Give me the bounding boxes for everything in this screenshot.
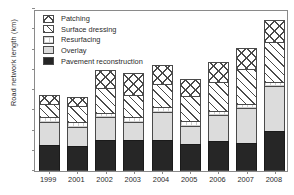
bar-segment-pavement-reconstruction[interactable] <box>123 140 144 171</box>
x-tick <box>77 171 78 174</box>
legend-item-overlay[interactable]: Overlay <box>43 46 143 55</box>
x-axis-label-2008: 2008 <box>257 175 291 184</box>
x-tick <box>218 171 219 174</box>
legend-label: Overlay <box>61 46 86 55</box>
bar-segment-patching[interactable] <box>152 65 173 84</box>
legend-label: Surface dressing <box>61 25 116 34</box>
x-tick <box>49 171 50 174</box>
bar-segment-pavement-reconstruction[interactable] <box>67 146 88 171</box>
bar-segment-overlay[interactable] <box>95 117 116 140</box>
bar-segment-patching[interactable] <box>180 79 201 96</box>
bar-segment-patching[interactable] <box>236 48 257 70</box>
x-tick <box>106 171 107 174</box>
bar-segment-resurfacing[interactable] <box>123 117 144 122</box>
y-tick <box>32 8 35 9</box>
bar-segment-patching[interactable] <box>95 70 116 88</box>
bar-1999[interactable] <box>39 95 60 171</box>
bar-segment-overlay[interactable] <box>264 86 285 131</box>
bar-segment-surface-dressing[interactable] <box>208 82 229 111</box>
bar-segment-patching[interactable] <box>123 73 144 95</box>
bar-segment-patching[interactable] <box>39 95 60 103</box>
bar-segment-overlay[interactable] <box>236 108 257 143</box>
bar-segment-surface-dressing[interactable] <box>236 69 257 103</box>
legend-label: Pavement reconstruction <box>61 57 143 66</box>
bar-segment-patching[interactable] <box>208 62 229 82</box>
legend-item-pavement-reconstruction[interactable]: Pavement reconstruction <box>43 56 143 65</box>
legend-swatch-icon <box>43 15 54 23</box>
legend-label: Resurfacing <box>61 35 100 44</box>
bar-segment-surface-dressing[interactable] <box>95 88 116 112</box>
bar-segment-resurfacing[interactable] <box>264 82 285 87</box>
bar-segment-pavement-reconstruction[interactable] <box>95 140 116 171</box>
bar-segment-overlay[interactable] <box>180 126 201 144</box>
bar-segment-surface-dressing[interactable] <box>180 96 201 120</box>
bar-segment-overlay[interactable] <box>67 127 88 146</box>
chart-legend: PatchingSurface dressingResurfacingOverl… <box>43 14 143 66</box>
bar-segment-resurfacing[interactable] <box>208 111 229 116</box>
bar-segment-pavement-reconstruction[interactable] <box>152 140 173 171</box>
legend-label: Patching <box>61 14 90 23</box>
bar-segment-resurfacing[interactable] <box>152 107 173 112</box>
bar-segment-overlay[interactable] <box>152 112 173 141</box>
legend-swatch-icon <box>43 25 54 33</box>
bar-2003[interactable] <box>123 73 144 171</box>
legend-item-surface-dressing[interactable]: Surface dressing <box>43 25 143 34</box>
stacked-bar-chart: Road network length (km) 199920012002200… <box>0 0 294 195</box>
x-tick <box>247 171 248 174</box>
legend-swatch-icon <box>43 46 54 54</box>
bar-2005[interactable] <box>180 79 201 171</box>
bar-segment-pavement-reconstruction[interactable] <box>236 143 257 171</box>
bar-2006[interactable] <box>208 62 229 171</box>
x-tick <box>190 171 191 174</box>
bar-2007[interactable] <box>236 48 257 171</box>
x-tick <box>162 171 163 174</box>
legend-item-resurfacing[interactable]: Resurfacing <box>43 35 143 44</box>
bar-segment-overlay[interactable] <box>208 115 229 141</box>
bar-segment-resurfacing[interactable] <box>95 113 116 118</box>
bar-segment-surface-dressing[interactable] <box>39 104 60 118</box>
bar-segment-surface-dressing[interactable] <box>152 84 173 107</box>
bar-2001[interactable] <box>67 97 88 171</box>
bar-segment-pavement-reconstruction[interactable] <box>180 144 201 171</box>
x-tick <box>275 171 276 174</box>
legend-swatch-icon <box>43 36 54 44</box>
bar-segment-resurfacing[interactable] <box>180 121 201 126</box>
bar-segment-surface-dressing[interactable] <box>123 95 144 118</box>
bar-segment-resurfacing[interactable] <box>67 122 88 127</box>
bar-segment-surface-dressing[interactable] <box>67 106 88 121</box>
bar-segment-pavement-reconstruction[interactable] <box>39 145 60 171</box>
bar-segment-patching[interactable] <box>67 97 88 106</box>
bar-segment-overlay[interactable] <box>39 122 60 145</box>
bar-2004[interactable] <box>152 65 173 171</box>
legend-item-patching[interactable]: Patching <box>43 14 143 23</box>
bar-2008[interactable] <box>264 20 285 171</box>
bar-segment-surface-dressing[interactable] <box>264 42 285 82</box>
bar-segment-patching[interactable] <box>264 20 285 43</box>
bar-segment-pavement-reconstruction[interactable] <box>264 131 285 171</box>
bar-segment-pavement-reconstruction[interactable] <box>208 141 229 171</box>
bar-segment-resurfacing[interactable] <box>236 104 257 109</box>
bar-segment-overlay[interactable] <box>123 122 144 141</box>
bar-segment-resurfacing[interactable] <box>39 117 60 122</box>
legend-swatch-icon <box>43 57 54 65</box>
y-axis-label: Road network length (km) <box>9 0 18 138</box>
bar-2002[interactable] <box>95 70 116 171</box>
x-tick <box>134 171 135 174</box>
